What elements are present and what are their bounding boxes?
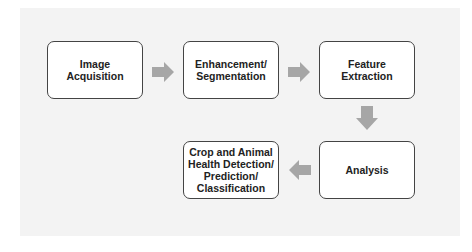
arrow-left-icon	[289, 160, 311, 180]
arrow-down-icon	[356, 106, 378, 130]
node-enhancement-segmentation: Enhancement/ Segmentation	[183, 41, 279, 99]
node-analysis: Analysis	[319, 141, 415, 199]
arrow-right-icon	[288, 62, 310, 82]
arrow-right-icon	[152, 62, 174, 82]
node-health-detection-prediction-classification: Crop and Animal Health Detection/ Predic…	[183, 141, 279, 199]
node-image-acquisition: Image Acquisition	[47, 41, 143, 99]
node-feature-extraction: Feature Extraction	[319, 41, 415, 99]
